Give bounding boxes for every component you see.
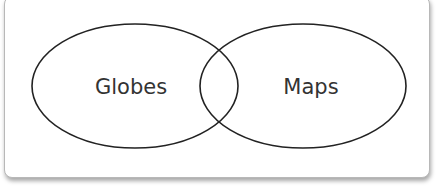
set-globes-label: Globes <box>95 75 167 99</box>
venn-diagram: Globes Maps <box>0 0 437 187</box>
set-maps-label: Maps <box>283 75 338 99</box>
